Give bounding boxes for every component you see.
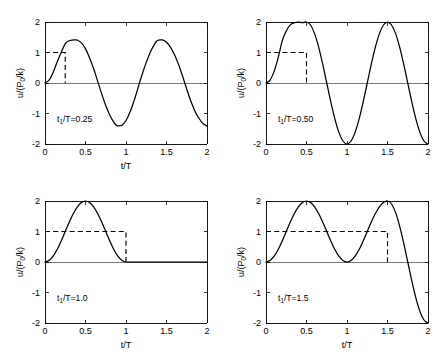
- y-tick-label: 2: [35, 17, 40, 27]
- y-tick-label: 2: [256, 17, 261, 27]
- x-axis-title: t/T: [121, 161, 132, 171]
- y-axis-title: u/(P0/k): [236, 68, 247, 98]
- y-tick-label: -1: [32, 109, 40, 119]
- x-tick-label: 0.5: [300, 326, 313, 336]
- x-tick-label: 1: [123, 147, 128, 157]
- y-tick-label: 0: [35, 257, 40, 267]
- load-pulse-curve: [45, 232, 126, 263]
- chart-panel-4: 00.511.52210-1-2u/(P0/k)t/Tt1/T=1.5: [221, 179, 442, 357]
- x-tick-label: 1: [344, 147, 349, 157]
- svg-text:u/(P0/k): u/(P0/k): [236, 247, 247, 277]
- x-tick-label: 2: [425, 147, 430, 157]
- y-tick-label: 1: [35, 227, 40, 237]
- x-axis-title: t/T: [121, 340, 132, 350]
- y-tick-label: -1: [253, 109, 261, 119]
- x-tick-label: 2: [204, 147, 209, 157]
- svg-text:u/(P0/k): u/(P0/k): [236, 68, 247, 98]
- y-axis-title: u/(P0/k): [236, 247, 247, 277]
- y-tick-label: 1: [256, 48, 261, 58]
- y-tick-label: -2: [253, 139, 261, 149]
- x-tick-label: 0: [263, 147, 268, 157]
- figure-root: 00.511.52210-1-2u/(P0/k)t/Tt1/T=0.2500.5…: [0, 0, 442, 357]
- panel-annotation: t1/T=0.25: [57, 114, 93, 125]
- svg-text:u/(P0/k): u/(P0/k): [15, 68, 26, 98]
- y-tick-label: 2: [35, 196, 40, 206]
- x-tick-label: 0: [263, 326, 268, 336]
- y-axis-title: u/(P0/k): [15, 68, 26, 98]
- chart-panel-1: 00.511.52210-1-2u/(P0/k)t/Tt1/T=0.25: [0, 0, 221, 178]
- x-tick-label: 1.5: [160, 326, 173, 336]
- x-tick-label: 2: [204, 326, 209, 336]
- y-tick-label: -2: [32, 318, 40, 328]
- x-tick-label: 1.5: [381, 326, 394, 336]
- x-tick-label: 0: [42, 147, 47, 157]
- panel-annotation: t1/T=0.50: [278, 114, 314, 125]
- y-tick-label: 1: [256, 227, 261, 237]
- y-tick-label: -1: [32, 288, 40, 298]
- x-tick-label: 1.5: [381, 147, 394, 157]
- x-tick-label: 0.5: [79, 147, 92, 157]
- chart-panel-2: 00.511.52210-1-2u/(P0/k)t1/T=0.50: [221, 0, 442, 178]
- x-tick-label: 1: [344, 326, 349, 336]
- x-tick-label: 0.5: [79, 326, 92, 336]
- y-tick-label: 2: [256, 196, 261, 206]
- x-tick-label: 1.5: [160, 147, 173, 157]
- x-tick-label: 0: [42, 326, 47, 336]
- x-tick-label: 0.5: [300, 147, 313, 157]
- load-pulse-curve: [266, 53, 307, 84]
- y-tick-label: -2: [253, 318, 261, 328]
- x-tick-label: 1: [123, 326, 128, 336]
- y-axis-title: u/(P0/k): [15, 247, 26, 277]
- y-tick-label: -1: [253, 288, 261, 298]
- y-tick-label: 0: [256, 78, 261, 88]
- y-tick-label: -2: [32, 139, 40, 149]
- panel-annotation: t1/T=1.0: [57, 293, 88, 304]
- y-tick-label: 1: [35, 48, 40, 58]
- y-tick-label: 0: [256, 257, 261, 267]
- x-axis-title: t/T: [342, 340, 353, 350]
- panel-annotation: t1/T=1.5: [278, 293, 309, 304]
- x-tick-label: 2: [425, 326, 430, 336]
- chart-panel-3: 00.511.52210-1-2u/(P0/k)t/Tt1/T=1.0: [0, 179, 221, 357]
- y-tick-label: 0: [35, 78, 40, 88]
- svg-text:u/(P0/k): u/(P0/k): [15, 247, 26, 277]
